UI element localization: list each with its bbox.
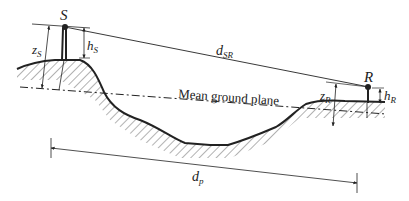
d-sr-label: dSR xyxy=(216,43,234,60)
diagram-canvas: S R zS hS dSR zR hR dp Mean ground plane xyxy=(0,0,409,201)
d-p-label: dp xyxy=(192,169,204,186)
receiver-label: R xyxy=(363,69,373,85)
h-source-label: hS xyxy=(87,38,99,55)
h-receiver-label: hR xyxy=(384,88,397,105)
source-label: S xyxy=(60,7,68,23)
ground-hatching xyxy=(0,55,409,165)
z-source-label: zS xyxy=(31,42,42,59)
z-receiver-label: zR xyxy=(319,88,331,105)
source-height-reference-line xyxy=(32,24,90,28)
source-point xyxy=(62,24,68,30)
mean-ground-plane-label: Mean ground plane xyxy=(178,86,280,108)
